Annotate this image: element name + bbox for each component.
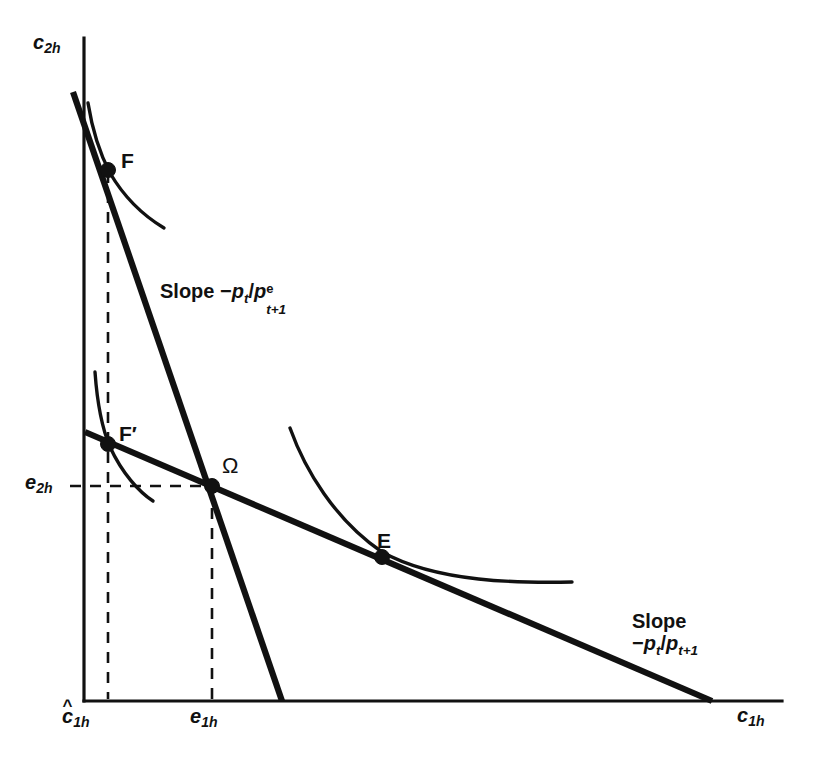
point-label-omega: Ω [222, 454, 238, 478]
slope-actual-line1: Slope [632, 611, 698, 633]
slope-actual-numerator-sub: t [656, 643, 661, 658]
figure-canvas: c2h c1h ^c1h e1h e2h F F′ Ω E Slope −pt/… [0, 0, 824, 765]
indifference-curve-e [290, 428, 572, 582]
slope-label-actual: Slope −pt/pt+1 [632, 611, 698, 654]
x-axis-label: c1h [737, 705, 765, 727]
slope-actual-denominator-sub: t+1 [678, 643, 698, 658]
y-tick-label-e-2h: e2h [25, 472, 53, 494]
slope-expected-numerator-sub: t [244, 291, 249, 306]
hat-accent-wrapper: ^c [62, 706, 73, 728]
x-tick-label-chat-1h: ^c1h [62, 706, 90, 728]
slope-expected-numerator: p [232, 280, 244, 302]
point-marker-f [101, 163, 116, 178]
x-axis-label-sub: 1h [748, 713, 765, 729]
hat-accent-icon: ^ [62, 697, 72, 715]
slope-expected-denominator-sup: e [266, 282, 273, 296]
x-axis-label-base: c [737, 704, 748, 726]
x-tick-label-e-1h: e1h [190, 706, 218, 728]
x-tick-e-base: e [190, 705, 201, 727]
point-marker-omega [205, 479, 220, 494]
slope-expected-prefix: Slope [160, 280, 220, 302]
actual-price-budget-line [85, 432, 712, 701]
y-axis-label-base: c [33, 31, 44, 53]
expected-price-budget-line [73, 92, 282, 701]
y-axis-label-sub: 2h [44, 40, 61, 56]
slope-actual-denominator: p [666, 632, 678, 654]
point-label-e: E [377, 530, 391, 553]
x-tick-chat-sub: 1h [73, 714, 90, 730]
point-marker-f-prime [101, 437, 116, 452]
y-axis-label: c2h [33, 32, 61, 54]
y-tick-e-sub: 2h [36, 480, 53, 496]
slope-actual-numerator: p [644, 632, 656, 654]
slope-label-expected: Slope −pt/pet+1 [160, 281, 266, 303]
slope-actual-minus: − [632, 632, 644, 654]
diagram-svg [0, 0, 824, 765]
slope-expected-denominator: p [254, 280, 266, 302]
point-label-f-prime: F′ [119, 423, 137, 446]
slope-actual-line2: −pt/pt+1 [632, 633, 698, 655]
y-tick-e-base: e [25, 471, 36, 493]
slope-expected-denominator-sub: t+1 [266, 303, 286, 318]
x-tick-e-sub: 1h [201, 714, 218, 730]
point-label-f: F [121, 150, 134, 173]
slope-expected-minus: − [220, 280, 232, 302]
